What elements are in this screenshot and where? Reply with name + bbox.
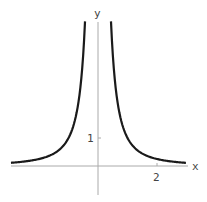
- x-tick-label: 2: [153, 171, 160, 184]
- x-axis-label: x: [192, 160, 199, 173]
- chart: 2 1 x y: [0, 0, 207, 202]
- y-tick-label: 1: [87, 132, 94, 145]
- curve-right-branch: [111, 21, 186, 162]
- y-axis-label: y: [94, 7, 101, 20]
- curve-left-branch: [11, 21, 85, 162]
